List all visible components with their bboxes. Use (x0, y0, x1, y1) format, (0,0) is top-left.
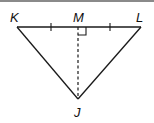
diagram-canvas: K M L J (0, 0, 154, 123)
label-l: L (136, 10, 143, 25)
label-k: K (10, 10, 20, 25)
right-angle-mark (78, 27, 86, 35)
label-j: J (73, 105, 81, 120)
label-m: M (73, 10, 84, 25)
segment-lj (78, 27, 141, 99)
segment-kj (17, 27, 78, 99)
triangle-figure: K M L J (0, 0, 154, 123)
